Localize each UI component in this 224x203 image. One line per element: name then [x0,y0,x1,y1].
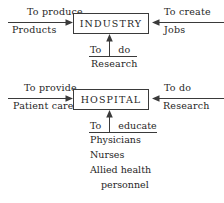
hospital-bottom-divider-rule [89,132,157,133]
industry-right-arrow-label-above: To create [164,6,211,17]
diagram-canvas: To produce Products INDUSTRY To create J… [0,0,224,203]
industry-bottom-arrow-label-above: To do [90,44,130,55]
hospital-left-arrow-label-below: Patient care [13,100,74,111]
list-item: Physicians [90,134,141,145]
industry-bottom-label-left: To [90,44,101,55]
arrow-left-icon [152,18,224,27]
hospital-right-arrow-label-below: Research [163,100,210,111]
hospital-bottom-label-right: educate [118,120,156,131]
hospital-bottom-label-left: To [90,120,101,131]
list-item: Nurses [90,149,124,160]
industry-bottom-divider-rule [89,56,137,57]
industry-bottom-label-right: do [118,44,130,55]
entity-label-industry: INDUSTRY [80,18,142,29]
industry-right-arrow-label-below: Jobs [164,24,185,35]
entity-box-industry[interactable]: INDUSTRY [73,13,149,34]
hospital-bottom-arrow-label-above: To educate [90,120,157,131]
industry-bottom-arrow-label-below: Research [91,58,138,69]
hospital-right-arrow-label-above: To do [164,82,191,93]
entity-box-hospital[interactable]: HOSPITAL [73,89,149,110]
list-item: Allied health [90,164,151,175]
hospital-left-arrow-label-above: To provide [24,82,77,93]
entity-label-hospital: HOSPITAL [81,94,142,105]
industry-left-arrow-label-below: Products [12,24,56,35]
list-item: personnel [101,179,149,190]
